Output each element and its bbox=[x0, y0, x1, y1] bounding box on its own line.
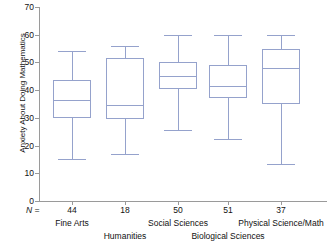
category-label: Fine Arts bbox=[12, 218, 132, 228]
whisker-cap-lower bbox=[214, 139, 242, 140]
whisker-line-upper bbox=[125, 46, 126, 58]
whisker-line-upper bbox=[228, 35, 229, 65]
y-tick-label: 60 bbox=[12, 31, 34, 40]
whisker-line-lower bbox=[72, 118, 73, 160]
y-axis-line bbox=[39, 7, 40, 202]
median-line bbox=[262, 68, 300, 69]
category-label: Social Sciences bbox=[118, 218, 238, 228]
whisker-cap-lower bbox=[267, 164, 295, 165]
y-tick-mark bbox=[35, 62, 39, 63]
whisker-line-upper bbox=[281, 35, 282, 49]
whisker-line-lower bbox=[228, 98, 229, 138]
sample-size-value: 50 bbox=[158, 205, 198, 215]
category-label: Physical Science/Math bbox=[221, 218, 330, 228]
whisker-line-upper bbox=[72, 51, 73, 80]
box-iqr-rect bbox=[209, 65, 247, 98]
boxplot-chart: Anxiety About Doing Mathematics 70605040… bbox=[0, 0, 330, 246]
box-iqr-rect bbox=[262, 49, 300, 104]
whisker-cap-lower bbox=[111, 154, 139, 155]
x-axis-line bbox=[39, 201, 327, 202]
median-line bbox=[53, 100, 91, 101]
y-tick-mark bbox=[35, 201, 39, 202]
sample-size-value: 44 bbox=[52, 205, 92, 215]
y-tick-mark bbox=[35, 146, 39, 147]
sample-size-value: 18 bbox=[105, 205, 145, 215]
y-tick-label: 30 bbox=[12, 114, 34, 123]
median-line bbox=[159, 76, 197, 77]
sample-size-value: 51 bbox=[208, 205, 248, 215]
n-equals-label: N = bbox=[26, 205, 39, 215]
whisker-line-lower bbox=[281, 104, 282, 164]
y-tick-mark bbox=[35, 7, 39, 8]
y-tick-label: 10 bbox=[12, 169, 34, 178]
y-tick-mark bbox=[35, 118, 39, 119]
y-tick-mark bbox=[35, 90, 39, 91]
y-tick-label: 70 bbox=[12, 3, 34, 12]
whisker-cap-lower bbox=[58, 159, 86, 160]
y-tick-label: 40 bbox=[12, 86, 34, 95]
category-label: Humanities bbox=[65, 231, 185, 241]
y-tick-mark bbox=[35, 173, 39, 174]
whisker-line-lower bbox=[125, 119, 126, 154]
whisker-cap-lower bbox=[164, 130, 192, 131]
median-line bbox=[209, 86, 247, 87]
whisker-line-upper bbox=[178, 35, 179, 63]
median-line bbox=[106, 105, 144, 106]
sample-size-value: 37 bbox=[261, 205, 301, 215]
whisker-line-lower bbox=[178, 89, 179, 131]
y-tick-label: 20 bbox=[12, 142, 34, 151]
category-label: Biological Sciences bbox=[168, 231, 288, 241]
y-tick-mark bbox=[35, 35, 39, 36]
y-tick-label: 50 bbox=[12, 58, 34, 67]
box-iqr-rect bbox=[106, 58, 144, 119]
